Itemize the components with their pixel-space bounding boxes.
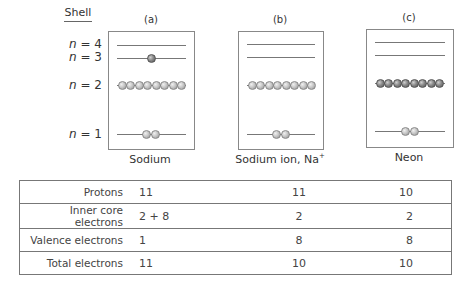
cell-neon: 2 <box>349 204 452 229</box>
shell-label-n3: n = 3 <box>62 50 102 64</box>
equals-sign: = <box>77 50 95 64</box>
electron-sphere <box>435 79 444 88</box>
shell-label-n4: n = 4 <box>62 37 102 51</box>
cell-sodium-ion: 11 <box>249 181 349 204</box>
panel-b-caption: Sodium ion, Na+ <box>220 152 340 166</box>
panel-c-neon-diagram <box>366 29 454 148</box>
cell-neon: 10 <box>349 181 452 204</box>
electron-comparison-table: Protons 11 11 10 Inner core electrons 2 … <box>19 180 452 275</box>
cell-sodium: 2 + 8 <box>131 204 249 229</box>
cell-sodium: 11 <box>131 181 249 204</box>
shell-line-n4 <box>117 45 186 46</box>
caption-text: Sodium <box>129 153 170 166</box>
electron-sphere <box>126 81 135 90</box>
row-label: Valence electrons <box>20 229 132 252</box>
panel-a-letter: (a) <box>108 14 194 25</box>
electron-sphere <box>307 81 316 90</box>
shell-label-n2: n = 2 <box>62 78 102 92</box>
electron-sphere <box>160 81 169 90</box>
shell-number: 3 <box>94 50 102 64</box>
n-symbol: n <box>69 37 77 51</box>
shell-line-n4 <box>247 44 315 45</box>
table-row-protons: Protons 11 11 10 <box>20 181 452 204</box>
cell-sodium-ion: 8 <box>249 229 349 252</box>
electron-sphere <box>384 79 393 88</box>
panel-c-caption: Neon <box>349 150 469 164</box>
row-label: Inner core electrons <box>20 204 132 229</box>
cell-neon: 8 <box>349 229 452 252</box>
table-row-total-electrons: Total electrons 11 10 10 <box>20 252 452 275</box>
shell-number: 1 <box>94 127 102 141</box>
caption-superscript: + <box>319 152 325 160</box>
table-row-valence-electrons: Valence electrons 1 8 8 <box>20 229 452 252</box>
electron-sphere <box>256 81 265 90</box>
electron-sphere <box>273 81 282 90</box>
cell-sodium-ion: 10 <box>249 252 349 275</box>
equals-sign: = <box>77 78 95 92</box>
shell-line-n4 <box>375 42 445 43</box>
caption-text: Sodium ion, Na <box>235 153 319 166</box>
panel-b-letter: (b) <box>237 14 323 25</box>
panel-b-sodium-ion-diagram <box>238 31 324 150</box>
n-symbol: n <box>69 127 77 141</box>
equals-sign: = <box>77 37 95 51</box>
n-symbol: n <box>69 78 77 92</box>
electron-sphere <box>147 54 156 63</box>
electron-sphere <box>290 81 299 90</box>
electron-sphere <box>142 130 151 139</box>
cell-sodium: 1 <box>131 229 249 252</box>
electron-sphere <box>418 79 427 88</box>
electron-sphere <box>177 81 186 90</box>
shell-line-n3 <box>247 57 315 58</box>
panel-a-sodium-diagram <box>108 31 195 150</box>
cell-sodium: 11 <box>131 252 249 275</box>
shell-number: 4 <box>94 37 102 51</box>
electron-sphere <box>401 127 410 136</box>
row-label: Protons <box>20 181 132 204</box>
electron-sphere <box>143 81 152 90</box>
cell-sodium-ion: 2 <box>249 204 349 229</box>
cell-neon: 10 <box>349 252 452 275</box>
shell-number: 2 <box>94 78 102 92</box>
electron-sphere <box>410 127 419 136</box>
electron-sphere <box>272 130 281 139</box>
shell-line-n3 <box>375 55 445 56</box>
electron-sphere <box>401 79 410 88</box>
shell-column-header: Shell <box>64 6 92 22</box>
n-symbol: n <box>69 50 77 64</box>
panel-c-letter: (c) <box>366 12 452 23</box>
electron-sphere <box>151 130 160 139</box>
equals-sign: = <box>77 127 95 141</box>
panel-a-caption: Sodium <box>90 152 210 166</box>
table-row-inner-core-electrons: Inner core electrons 2 + 8 2 2 <box>20 204 452 229</box>
caption-text: Neon <box>395 151 424 164</box>
row-label: Total electrons <box>20 252 132 275</box>
shell-label-n1: n = 1 <box>62 127 102 141</box>
electron-sphere <box>281 130 290 139</box>
